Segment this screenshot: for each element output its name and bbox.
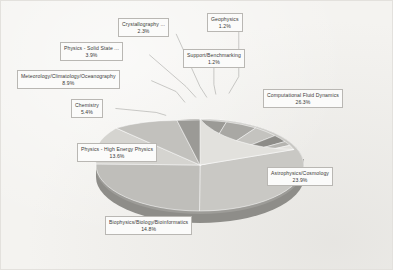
callout-percent: 5.4%	[75, 109, 99, 116]
callout-crystallography: Crystallography ... 2.3%	[118, 18, 169, 37]
callout-label: Astrophysics/Cosmology	[271, 170, 329, 176]
pie-slice-astro	[96, 164, 200, 211]
callout-biophysics-biology-bioinformatics: Biophysics/Biology/Bioinformatics 14.8%	[105, 216, 192, 235]
callout-physics-solid-state: Physics - Solid State ... 3.9%	[60, 42, 123, 61]
callout-percent: 2.3%	[122, 28, 165, 35]
callout-label: Physics - Solid State ...	[64, 45, 119, 51]
chart-frame: Computational Fluid Dynamics 26.3% Astro…	[0, 0, 393, 270]
callout-label: Support/Benchmarking	[187, 52, 241, 58]
callout-label: Biophysics/Biology/Bioinformatics	[109, 219, 188, 225]
callout-percent: 13.6%	[81, 153, 153, 160]
callout-label: Geophysics	[211, 16, 239, 22]
callout-physics-high-energy-physics: Physics - High Energy Physics 13.6%	[77, 143, 157, 162]
callout-percent: 26.3%	[267, 99, 339, 106]
callout-astrophysics-cosmology: Astrophysics/Cosmology 23.9%	[267, 167, 333, 186]
callout-percent: 8.9%	[21, 80, 116, 87]
callout-label: Crystallography ...	[122, 21, 165, 27]
callout-percent: 14.8%	[109, 226, 188, 233]
callout-percent: 1.2%	[187, 59, 241, 66]
callout-percent: 3.9%	[64, 52, 119, 59]
callout-label: Physics - High Energy Physics	[81, 146, 153, 152]
pie-top-face	[95, 119, 304, 211]
callout-label: Meteorology/Climatology/Oceanography	[21, 73, 116, 79]
callout-label: Computational Fluid Dynamics	[267, 92, 339, 98]
callout-percent: 23.9%	[271, 177, 329, 184]
callout-meteorology-climatology-oceanography: Meteorology/Climatology/Oceanography 8.9…	[17, 70, 120, 89]
callout-label: Chemistry	[75, 102, 99, 108]
callout-geophysics: Geophysics 1.2%	[207, 13, 243, 32]
callout-chemistry: Chemistry 5.4%	[71, 99, 103, 118]
callout-computational-fluid-dynamics: Computational Fluid Dynamics 26.3%	[263, 89, 343, 108]
callout-percent: 1.2%	[211, 23, 239, 30]
callout-support-benchmarking: Support/Benchmarking 1.2%	[183, 49, 245, 68]
